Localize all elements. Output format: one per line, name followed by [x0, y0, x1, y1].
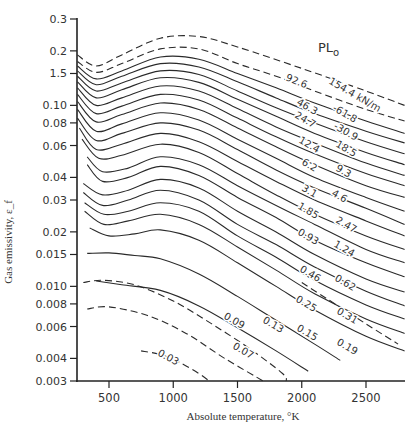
x-tick-label: 500: [98, 391, 120, 405]
x-tick-label: 2000: [287, 391, 316, 405]
curve-label: 0.09: [222, 310, 247, 331]
curve-label: -30.9: [332, 120, 360, 142]
y-tick-label: 0.010: [36, 280, 68, 293]
curve-label: 0.19: [335, 336, 360, 357]
curve-label: 0.07: [231, 340, 256, 361]
curve-label: 9.3: [334, 162, 353, 179]
x-tick-label: 1500: [223, 391, 252, 405]
curve-pl-0_09: [83, 280, 286, 381]
y-tick-label: 1.5: [50, 67, 68, 80]
y-tick-label: 0.10: [43, 99, 68, 112]
curve-pl-6_2: [78, 109, 405, 211]
x-ticks: 5001000150020002500: [98, 381, 381, 405]
y-tick-label: 0.008: [36, 298, 68, 311]
y-tick-label: 0.004: [36, 352, 68, 365]
y-tick-label: 0.06: [43, 140, 68, 153]
x-tick-label: 2500: [351, 391, 380, 405]
curve-label: 0.25: [294, 293, 319, 314]
curve-label: 0.46: [298, 263, 323, 284]
curve-label: 0.13: [261, 314, 286, 335]
curve-label: 2.47: [334, 214, 359, 235]
curve-label: 6.2: [300, 156, 319, 173]
curve-label: 0.62: [333, 272, 358, 293]
curve-pl-1_24: [87, 165, 404, 277]
y-tick-label: 0.04: [43, 171, 68, 184]
curve-label: 92.6: [284, 72, 309, 91]
curve-label: 1.85: [296, 200, 321, 221]
y-tick-label: 0.015: [36, 248, 68, 261]
y-tick-label: 0.006: [36, 321, 68, 334]
x-axis-title: Absolute temperature, °K: [187, 410, 300, 422]
y-tick-label: 0.3: [50, 13, 68, 26]
y-tick-label: 0.08: [43, 117, 68, 130]
y-tick-label: 0.2: [50, 45, 68, 58]
emissivity-chart: 0.30.21.50.100.080.060.040.030.020.0150.…: [0, 0, 418, 440]
curve-label: 1.24: [332, 238, 357, 259]
y-tick-label: 0.02: [43, 226, 68, 239]
legend-title: PLo: [318, 40, 339, 58]
y-tick-label: 0.03: [43, 194, 68, 207]
curve-label: 0.93: [296, 226, 321, 247]
y-axis-title: Gas emissivity, ε_f: [2, 200, 14, 284]
x-tick-label: 1000: [159, 391, 188, 405]
curve-pl-0_93: [83, 179, 404, 292]
y-ticks: 0.30.21.50.100.080.060.040.030.020.0150.…: [36, 13, 78, 388]
curve-label: 3.1: [300, 182, 319, 199]
y-tick-label: 0.003: [36, 375, 68, 388]
curve-pl-0_25: [90, 228, 405, 351]
curve-label: 0.03: [156, 347, 181, 367]
